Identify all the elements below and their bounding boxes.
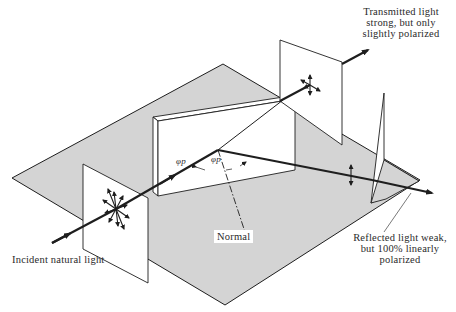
reflected-light-label: Reflected light weak, but 100% linearly … bbox=[344, 232, 456, 265]
normal-label: Normal bbox=[214, 230, 253, 243]
transmitted-beam-arrow bbox=[342, 50, 368, 64]
reflected-label-line-3: polarized bbox=[344, 254, 456, 265]
transmitted-light-label: Transmitted light strong, but only sligh… bbox=[346, 6, 456, 39]
reflected-label-line-2: but 100% linearly bbox=[344, 243, 456, 254]
transmitted-label-line-3: slightly polarized bbox=[346, 28, 456, 39]
incident-light-label: Incident natural light bbox=[12, 254, 104, 265]
incident-beam-arrow bbox=[52, 234, 70, 244]
transmitted-label-line-2: strong, but only bbox=[346, 17, 456, 28]
incident-angle-label: φp bbox=[176, 156, 186, 167]
diagram-canvas bbox=[0, 0, 456, 312]
transmitted-label-line-1: Transmitted light bbox=[346, 6, 456, 17]
reflected-angle-label: φp bbox=[211, 154, 221, 165]
reflected-label-line-1: Reflected light weak, bbox=[344, 232, 456, 243]
